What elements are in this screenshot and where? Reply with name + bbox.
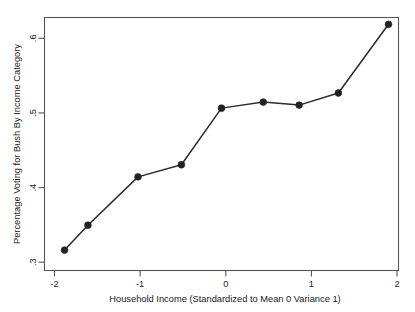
x-tick-labels: -2 -1 0 1 2 — [50, 279, 399, 289]
plot-area-border — [45, 18, 399, 271]
data-point — [61, 247, 68, 254]
data-point — [296, 102, 303, 109]
line-chart: .6 .5 .4 .3 Percentage Voting for Bush B… — [0, 0, 415, 312]
y-tick-label-0.4: .4 — [28, 184, 38, 192]
x-tick-label-0: 0 — [223, 279, 228, 289]
x-tick-label-2: 2 — [394, 279, 399, 289]
data-point — [135, 173, 142, 180]
data-point — [260, 99, 267, 106]
y-tick-label-0.6: .6 — [28, 34, 38, 42]
data-point — [335, 90, 342, 97]
x-tick-label--1: -1 — [136, 279, 144, 289]
x-tick-label--2: -2 — [50, 279, 58, 289]
series-markers — [61, 21, 392, 254]
data-point — [385, 21, 392, 28]
y-tick-label-0.5: .5 — [28, 109, 38, 117]
x-axis-title: Household Income (Standardized to Mean 0… — [109, 294, 340, 304]
y-axis-title: Percentage Voting for Bush By Income Cat… — [12, 44, 22, 244]
chart-figure: .6 .5 .4 .3 Percentage Voting for Bush B… — [0, 0, 415, 312]
plot-frame — [45, 18, 399, 271]
y-tick-label-0.3: .3 — [28, 258, 38, 266]
x-tick-label-1: 1 — [309, 279, 314, 289]
series-line-bush-vote — [65, 24, 389, 250]
y-axis-ticks — [39, 38, 45, 262]
x-axis-ticks — [55, 271, 398, 277]
data-point — [218, 105, 225, 112]
data-point — [178, 161, 185, 168]
data-point — [85, 222, 92, 229]
y-tick-labels: .6 .5 .4 .3 — [28, 34, 38, 266]
